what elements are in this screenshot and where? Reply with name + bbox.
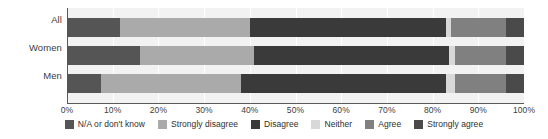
stacked-bar-chart: All Women Men 0%10%20%30%40%50%60%70%80%… xyxy=(0,0,548,139)
x-axis-line xyxy=(67,103,524,104)
x-axis-tick-label: 50% xyxy=(287,105,304,115)
legend-item-label: N/A or don't know xyxy=(78,119,145,129)
bar-row xyxy=(67,18,524,37)
bar-segment xyxy=(241,74,447,93)
legend-swatch-icon xyxy=(251,120,260,129)
legend-swatch-icon xyxy=(158,120,167,129)
x-axis-tick-label: 70% xyxy=(378,105,395,115)
chart-legend: N/A or don't knowStrongly disagreeDisagr… xyxy=(0,119,548,129)
gridline xyxy=(524,8,525,103)
legend-item-label: Strongly disagree xyxy=(171,119,238,129)
legend-item-label: Disagree xyxy=(264,119,298,129)
legend-item-label: Agree xyxy=(378,119,401,129)
y-axis-label-men: Men xyxy=(0,70,62,81)
x-axis-tick-label: 40% xyxy=(241,105,258,115)
legend-item: Neither xyxy=(311,119,352,129)
bar-segment xyxy=(506,46,524,65)
legend-item-label: Strongly agree xyxy=(427,119,483,129)
bar-segment xyxy=(506,74,524,93)
legend-item: Disagree xyxy=(251,119,298,129)
plot-area xyxy=(67,8,524,103)
x-axis-tick-label: 60% xyxy=(333,105,350,115)
x-axis-tick-label: 0% xyxy=(61,105,74,115)
bar-segment xyxy=(250,18,447,37)
legend-item: N/A or don't know xyxy=(65,119,145,129)
legend-item: Agree xyxy=(365,119,401,129)
bar-segment xyxy=(67,74,101,93)
legend-item: Strongly agree xyxy=(414,119,483,129)
bar-segment xyxy=(451,18,506,37)
bar-segment xyxy=(67,18,120,37)
bar-segment xyxy=(101,74,240,93)
legend-item: Strongly disagree xyxy=(158,119,238,129)
y-axis-label-all: All xyxy=(0,14,62,25)
bar-segment xyxy=(506,18,524,37)
x-axis-tick-label: 10% xyxy=(104,105,121,115)
y-axis-label-women: Women xyxy=(0,42,62,53)
x-axis-tick-label: 20% xyxy=(150,105,167,115)
bar-row xyxy=(67,46,524,65)
bar-row xyxy=(67,74,524,93)
bar-segment xyxy=(455,74,505,93)
legend-swatch-icon xyxy=(311,120,320,129)
legend-swatch-icon xyxy=(65,120,74,129)
bar-segment xyxy=(449,46,456,65)
legend-swatch-icon xyxy=(365,120,374,129)
bar-segment xyxy=(120,18,250,37)
bar-segment xyxy=(446,74,455,93)
legend-item-label: Neither xyxy=(324,119,352,129)
x-axis-tick-label: 100% xyxy=(513,105,535,115)
bar-segment xyxy=(254,46,448,65)
legend-swatch-icon xyxy=(414,120,423,129)
bar-segment xyxy=(67,46,140,65)
bar-segment xyxy=(140,46,254,65)
bar-segment xyxy=(455,46,505,65)
x-axis-tick-label: 90% xyxy=(470,105,487,115)
x-axis-tick-label: 80% xyxy=(424,105,441,115)
x-axis-tick-label: 30% xyxy=(195,105,212,115)
